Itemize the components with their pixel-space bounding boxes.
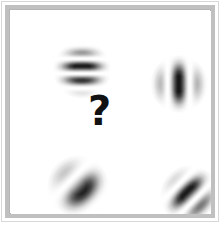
gabor-patch-top-right <box>148 53 210 115</box>
gabor-matrix-figure: ? <box>0 0 222 225</box>
gaussian-window-top-right <box>148 53 210 115</box>
gabor-patch-bottom-right <box>158 163 211 214</box>
question-mark-placeholder: ? <box>88 91 111 131</box>
gaussian-window-bottom-right <box>158 163 211 214</box>
figure-canvas: ? <box>11 11 211 214</box>
gabor-patch-bottom-left <box>45 153 111 214</box>
gaussian-window-bottom-left <box>45 153 111 214</box>
